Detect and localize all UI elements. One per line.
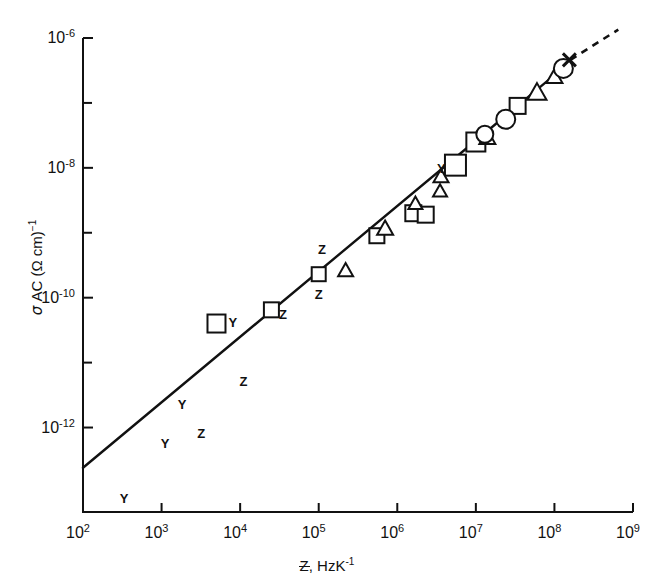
letter-marker-z: Z — [239, 375, 247, 388]
marker-triangle — [408, 197, 422, 209]
x-tick-exponent: 9 — [634, 522, 640, 534]
marker-triangle — [433, 184, 447, 196]
x-axis-label-exponent: -1 — [345, 556, 354, 567]
letter-marker-z: Z — [197, 427, 205, 440]
y-tick-exponent: -6 — [65, 27, 75, 39]
marker-square — [207, 315, 225, 333]
x-tick-exponent: 6 — [398, 522, 404, 534]
x-tick-exponent: 4 — [241, 522, 247, 534]
letter-marker-y: Y — [437, 162, 446, 175]
letter-marker-z: Z — [315, 288, 323, 301]
letter-marker-y: Y — [229, 316, 238, 329]
y-tick-base: 10 — [47, 29, 65, 46]
x-tick-label: 102 — [66, 522, 90, 542]
x-tick-exponent: 7 — [477, 522, 483, 534]
x-tick-base: 10 — [302, 524, 320, 541]
z-bar-glyph: Z — [300, 557, 309, 574]
x-tick-label: 105 — [302, 522, 326, 542]
y-tick-base: 10 — [41, 419, 59, 436]
trend-line-extension — [570, 30, 618, 60]
marker-square — [445, 155, 466, 176]
x-tick-base: 10 — [145, 524, 163, 541]
letter-marker-y: Y — [120, 492, 129, 505]
y-axis-label-sub: AC — [28, 277, 45, 306]
x-tick-base: 10 — [616, 524, 634, 541]
marker-circle — [476, 126, 493, 143]
y-tick-label: 10-8 — [31, 157, 75, 177]
plot-canvas — [0, 0, 654, 587]
letter-marker-y: Y — [161, 437, 170, 450]
marker-square — [312, 267, 326, 281]
letter-marker-z: Z — [279, 308, 287, 321]
x-tick-exponent: 3 — [162, 522, 168, 534]
x-axis-label: Z, HzK-1 — [0, 556, 654, 574]
x-tick-label: 103 — [145, 522, 169, 542]
x-tick-label: 104 — [223, 522, 247, 542]
letter-marker-z: Z — [318, 243, 326, 256]
marker-triangle — [338, 263, 353, 276]
x-tick-exponent: 8 — [555, 522, 561, 534]
x-tick-label: 108 — [537, 522, 561, 542]
y-tick-exponent: -8 — [65, 157, 75, 169]
y-axis-label-unit: (Ω cm) — [28, 231, 45, 276]
x-tick-exponent: 2 — [84, 522, 90, 534]
marker-circle — [496, 110, 515, 129]
y-tick-exponent: -10 — [59, 287, 75, 299]
y-tick-base: 10 — [47, 159, 65, 176]
y-axis-label: σ AC (Ω cm)−1 — [27, 188, 46, 348]
x-tick-base: 10 — [537, 524, 555, 541]
x-tick-label: 107 — [459, 522, 483, 542]
y-axis-label-exponent: −1 — [27, 220, 38, 231]
x-tick-exponent: 5 — [320, 522, 326, 534]
y-tick-label: 10-6 — [31, 27, 75, 47]
data-markers-group — [207, 53, 575, 332]
y-tick-label: 10-12 — [23, 417, 75, 437]
x-tick-label: 109 — [616, 522, 640, 542]
x-tick-base: 10 — [223, 524, 241, 541]
x-tick-base: 10 — [66, 524, 84, 541]
x-tick-label: 106 — [380, 522, 404, 542]
marker-triangle — [527, 83, 546, 100]
y-tick-exponent: -12 — [59, 417, 75, 429]
x-axis-label-text: , HzK — [309, 557, 346, 574]
letter-marker-y: Y — [178, 398, 187, 411]
figure-root: 102103104105106107108109 10-610-810-1010… — [0, 0, 654, 587]
sigma-glyph: σ — [28, 306, 46, 316]
marker-square — [264, 302, 279, 317]
x-tick-base: 10 — [459, 524, 477, 541]
x-tick-base: 10 — [380, 524, 398, 541]
